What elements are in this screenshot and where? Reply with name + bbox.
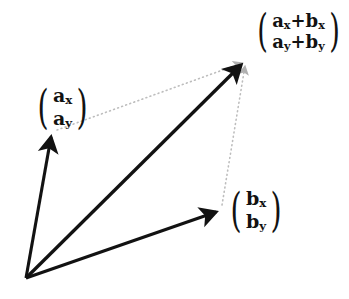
vector-b-open-paren: ( [230,187,241,233]
vector-sum-x-component: ax+bx [272,12,325,30]
vector-a-label: ( ax ay ) [34,84,91,130]
vector-b-y-component: by [246,212,266,231]
vector-b-components: bx by [245,189,267,231]
vector-b-x-component: bx [246,189,266,208]
vector-a-close-paren: ) [77,84,88,130]
vector-addition-figure: ( ax ay ) ( bx by ) ( ax+bx ay+by ) [0,0,349,299]
vector-b-label: ( bx by ) [227,187,285,233]
vector-a-components: ax ay [52,86,73,128]
vector-sum-close-paren: ) [329,9,340,53]
vector-a-x-component: ax [53,86,72,105]
vector-b-close-paren: ) [271,187,282,233]
vector-sum-y-component: ay+by [272,33,324,51]
vector-sum-components: ax+bx ay+by [271,12,326,51]
vector-sum-label: ( ax+bx ay+by ) [254,9,343,53]
vector-a-open-paren: ( [37,84,48,130]
vector-a-y-component: ay [53,109,72,128]
vector-sum-open-paren: ( [257,9,268,53]
vector-b-arrow [26,212,216,278]
